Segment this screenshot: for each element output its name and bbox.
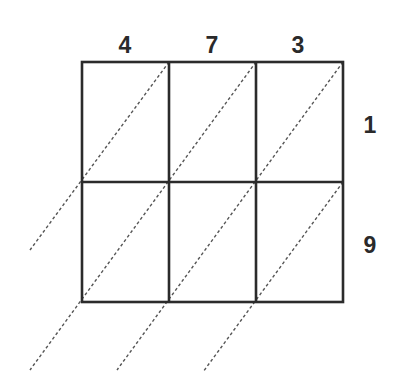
diagonal-line-1 — [30, 62, 169, 250]
diagonal-dashed-lines — [30, 62, 343, 372]
multiplicand-digit-1: 4 — [119, 34, 132, 57]
multiplier-digit-1: 1 — [364, 114, 377, 137]
multiplier-digit-2: 9 — [364, 234, 377, 257]
lattice-diagram — [0, 0, 394, 389]
lattice-grid — [82, 62, 343, 302]
diagonal-line-4 — [203, 182, 343, 372]
multiplicand-digit-3: 3 — [292, 34, 305, 57]
diagonal-line-3 — [117, 62, 343, 370]
multiplicand-digit-2: 7 — [206, 34, 219, 57]
diagonal-line-2 — [30, 62, 256, 370]
